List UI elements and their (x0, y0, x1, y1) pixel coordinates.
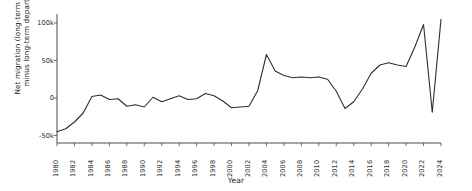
series-line (57, 19, 441, 132)
axis-tick-marks (54, 23, 441, 146)
x-tick-label: 2016 (366, 160, 374, 177)
x-tick-label: 1982 (69, 160, 77, 177)
x-tick-label: 1992 (156, 160, 164, 177)
x-tick-label: 1984 (87, 160, 95, 177)
x-tick-label: 2004 (261, 160, 269, 177)
x-tick-label: 2020 (401, 160, 409, 177)
x-tick-label: 2008 (296, 160, 304, 177)
x-tick-label: 2022 (418, 160, 426, 177)
x-tick-label: 1996 (191, 160, 199, 177)
axis-spines (57, 14, 441, 143)
net-migration-line-chart: Net migration (long-term arrivals minus … (0, 0, 472, 191)
x-tick-label: 2014 (348, 160, 356, 177)
x-tick-label: 2018 (383, 160, 391, 177)
x-tick-label: 2024 (436, 160, 444, 177)
x-tick-label: 1990 (139, 160, 147, 177)
x-tick-label: 2000 (226, 160, 234, 177)
series-group (57, 19, 441, 132)
x-tick-label: 1980 (52, 160, 60, 177)
x-tick-label: 1986 (104, 160, 112, 177)
x-tick-label: 2012 (331, 160, 339, 177)
x-tick-label: 2006 (279, 160, 287, 177)
x-axis-title: Year (0, 176, 472, 185)
x-tick-label: 2010 (313, 160, 321, 177)
x-tick-label: 2002 (244, 160, 252, 177)
x-tick-label: 1998 (209, 160, 217, 177)
x-tick-label: 1988 (121, 160, 129, 177)
x-tick-label-group: 1980198219841986198819901992199419961998… (0, 143, 472, 177)
x-tick-label: 1994 (174, 160, 182, 177)
